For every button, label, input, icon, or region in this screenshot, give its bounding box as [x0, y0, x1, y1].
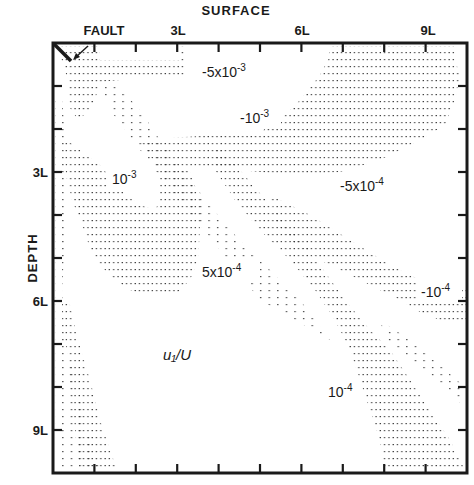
y-tick-label-9L: 9L: [33, 423, 48, 438]
x-tick-label-6L: 6L: [294, 23, 309, 38]
y-tick-label-3L: 3L: [33, 165, 48, 180]
variable-label: u₁/U: [163, 346, 191, 363]
y-tick-label-6L: 6L: [33, 294, 48, 309]
contour-plot: SURFACE DEPTH FAULT 3L 6L 9L 3L 6L 9L: [0, 0, 474, 485]
region-neg-1e-3: [140, 46, 460, 175]
y-axis-title: DEPTH: [25, 233, 40, 282]
x-tick-label-3L: 3L: [170, 23, 185, 38]
x-axis-title: SURFACE: [201, 3, 270, 18]
contour-figure: SURFACE DEPTH FAULT 3L 6L 9L 3L 6L 9L: [0, 0, 474, 485]
contour-label-neg-5e-4: -5x10-4: [340, 176, 384, 194]
x-tick-label-9L: 9L: [420, 23, 435, 38]
fault-label: FAULT: [84, 23, 125, 38]
